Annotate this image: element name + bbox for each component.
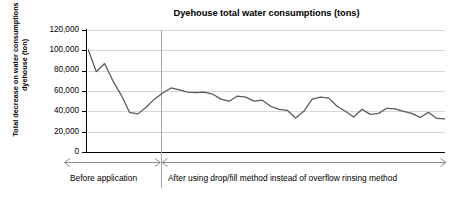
y-axis-tick: [82, 71, 87, 72]
y-tick-label: 0: [74, 148, 79, 156]
series-line-water-consumption: [88, 49, 445, 119]
y-tick-label: 60,000: [54, 87, 79, 95]
phase-range-arrows: [0, 156, 469, 170]
y-axis-tick: [82, 30, 87, 31]
y-tick-label: 20,000: [54, 128, 79, 136]
caption-before-application: Before application: [70, 172, 137, 184]
y-axis-tick: [82, 91, 87, 92]
chart-figure: Total decrease on water consumptions of …: [0, 0, 469, 204]
y-axis-tick: [82, 50, 87, 51]
caption-after-application: After using drop/fill method instead of …: [168, 172, 397, 184]
y-tick-label: 40,000: [54, 107, 79, 115]
x-axis-line: [86, 152, 445, 153]
chart-title: Dyehouse total water consumptions (tons): [88, 8, 445, 18]
y-tick-label: 100,000: [49, 46, 79, 54]
data-series-svg: [88, 30, 445, 152]
y-tick-label: 80,000: [54, 66, 79, 74]
y-axis-tick: [82, 111, 87, 112]
y-tick-label: 120,000: [49, 26, 79, 34]
y-axis-tick: [82, 132, 87, 133]
phase-captions: Before application After using drop/fill…: [0, 172, 469, 188]
